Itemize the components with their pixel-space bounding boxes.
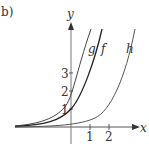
- curve-g: [15, 29, 91, 126]
- plot: [0, 0, 149, 148]
- x-tick-2: 2: [105, 131, 113, 143]
- y-axis-arrow-icon: [68, 22, 74, 30]
- x-tick-1: 1: [86, 131, 94, 143]
- y-tick-2: 2: [61, 86, 69, 98]
- y-tick-1: 1: [61, 104, 69, 116]
- y-axis-label: y: [67, 8, 74, 20]
- curve-label-h: h: [126, 43, 134, 55]
- x-axis-label: x: [140, 122, 147, 134]
- y-tick-3: 3: [61, 68, 69, 80]
- x-axis-arrow-icon: [132, 124, 140, 130]
- curve-label-g: g: [88, 43, 96, 55]
- curve-label-f: f: [101, 43, 105, 55]
- curve-h: [15, 29, 135, 127]
